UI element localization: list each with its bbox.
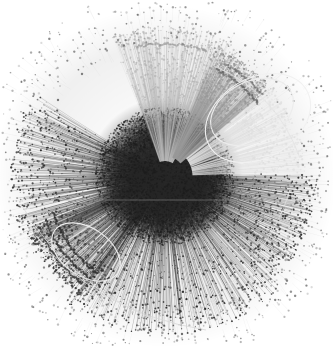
network-graph-figure xyxy=(0,0,333,347)
network-graph-canvas xyxy=(0,0,333,347)
